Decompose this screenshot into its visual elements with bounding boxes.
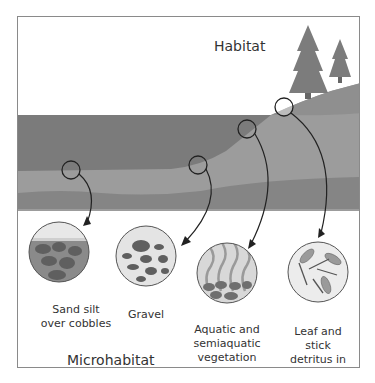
arrowhead-vegetation bbox=[248, 239, 256, 249]
arrowhead-sand bbox=[83, 216, 91, 226]
label-detritus: Leaf and stick detritus in margin bbox=[282, 325, 354, 368]
micro-detritus bbox=[288, 242, 348, 302]
diagram-frame: Habitat Sand silt over cobbles Gravel Aq… bbox=[17, 16, 360, 368]
micro-vegetation bbox=[197, 241, 257, 303]
micro-gravel bbox=[116, 226, 176, 286]
habitat-title: Habitat bbox=[214, 38, 265, 54]
micro-sand-silt bbox=[29, 222, 89, 286]
tree-large-icon bbox=[289, 25, 328, 99]
label-vegetation: Aquatic and semiaquatic vegetation bbox=[178, 323, 276, 365]
callout-circle-detritus bbox=[275, 98, 293, 116]
microhabitat-title: Microhabitat bbox=[67, 352, 154, 368]
label-gravel: Gravel bbox=[106, 308, 186, 322]
tree-small-icon bbox=[329, 39, 351, 83]
